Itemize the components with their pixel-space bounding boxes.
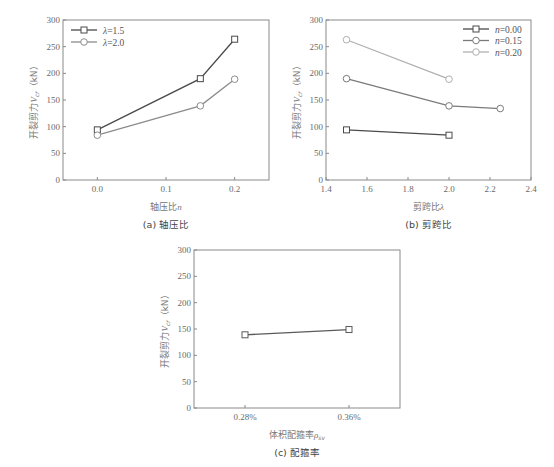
chart-shear-span-ratio: 0501001502002503001.41.61.82.02.22.4开裂剪力…: [291, 15, 537, 230]
y-tick-label: 100: [178, 350, 192, 360]
x-tick-label: 1.6: [361, 184, 373, 194]
y-tick-label: 100: [47, 122, 61, 132]
plot-frame: [63, 20, 269, 180]
x-tick-label: 1.4: [320, 184, 332, 194]
y-tick-label: 0: [187, 403, 192, 413]
legend-label: n=0.00: [495, 25, 522, 35]
y-tick-label: 250: [47, 42, 61, 52]
circle-marker: [446, 103, 453, 110]
circle-marker: [197, 103, 204, 110]
square-marker: [344, 127, 350, 133]
y-tick-label: 150: [310, 95, 324, 105]
y-axis-title: 开裂剪力Vcr（kN）: [28, 61, 40, 138]
square-marker: [81, 27, 87, 33]
circle-marker: [94, 132, 101, 139]
y-tick-label: 250: [310, 42, 324, 52]
y-tick-label: 50: [182, 377, 192, 387]
legend-label: λ=1.5: [102, 26, 125, 36]
square-marker: [346, 327, 352, 333]
x-tick-label: 1.8: [402, 184, 414, 194]
circle-marker: [343, 75, 350, 82]
y-tick-label: 250: [178, 271, 192, 281]
legend-label: λ=2.0: [102, 38, 125, 48]
data-series: [242, 327, 352, 338]
series-line: [347, 130, 450, 135]
circle-marker: [231, 76, 238, 83]
data-series: [343, 75, 503, 111]
y-tick-label: 200: [47, 68, 61, 78]
series-line: [97, 79, 234, 135]
series-line: [245, 330, 349, 335]
x-tick-label: 2.4: [525, 184, 537, 194]
chart-caption: (a) 轴压比: [143, 219, 189, 230]
y-tick-label: 200: [310, 68, 324, 78]
y-tick-label: 0: [56, 175, 61, 185]
circle-marker: [473, 49, 480, 56]
x-tick-label: 2.2: [484, 184, 495, 194]
square-marker: [232, 36, 238, 42]
y-tick-label: 50: [51, 148, 61, 158]
square-marker: [197, 76, 203, 82]
figure-canvas: 0501001502002503000.00.10.2开裂剪力Vcr（kN）轴压…: [0, 0, 554, 467]
chart-stirrup-ratio: 0501001502002503000.28%0.36%开裂剪力Vcr（kN）体…: [159, 245, 400, 458]
chart-axial-compression-ratio: 0501001502002503000.00.10.2开裂剪力Vcr（kN）轴压…: [28, 15, 269, 230]
circle-marker: [446, 76, 453, 83]
y-tick-label: 150: [178, 324, 192, 334]
y-tick-label: 200: [178, 298, 192, 308]
chart-caption: (c) 配箍率: [274, 447, 320, 458]
x-axis-title: 剪跨比λ: [413, 201, 444, 212]
y-axis-title: 开裂剪力Vcr（kN）: [291, 61, 303, 138]
circle-marker: [343, 36, 350, 43]
x-tick-label: 0.36%: [337, 412, 361, 422]
series-line: [347, 79, 501, 109]
data-series: [94, 76, 238, 139]
circle-marker: [81, 39, 88, 46]
y-tick-label: 300: [178, 245, 192, 255]
y-tick-label: 300: [310, 15, 324, 25]
data-series: [343, 36, 452, 82]
legend: λ=1.5λ=2.0: [71, 26, 125, 48]
circle-marker: [473, 37, 480, 44]
x-tick-label: 2.0: [443, 184, 455, 194]
y-tick-label: 300: [47, 15, 61, 25]
series-line: [347, 40, 450, 79]
circle-marker: [497, 105, 504, 112]
data-series: [94, 36, 237, 133]
square-marker: [473, 26, 479, 32]
legend-label: n=0.20: [495, 48, 522, 58]
chart-caption: (b) 剪跨比: [405, 219, 451, 230]
y-tick-label: 50: [314, 148, 324, 158]
legend-label: n=0.15: [495, 36, 522, 46]
square-marker: [242, 332, 248, 338]
x-tick-label: 0.28%: [233, 412, 257, 422]
x-axis-title: 轴压比n: [150, 201, 182, 212]
x-axis-title: 体积配箍率ρsv: [269, 429, 325, 441]
y-tick-label: 150: [47, 95, 61, 105]
legend: n=0.00n=0.15n=0.20: [463, 25, 522, 58]
plot-frame: [194, 250, 400, 408]
y-axis-title: 开裂剪力Vcr（kN）: [159, 290, 171, 367]
square-marker: [446, 132, 452, 138]
y-tick-label: 100: [310, 122, 324, 132]
x-tick-label: 0.2: [229, 184, 240, 194]
data-series: [344, 127, 453, 138]
x-tick-label: 0.0: [92, 184, 104, 194]
x-tick-label: 0.1: [160, 184, 171, 194]
